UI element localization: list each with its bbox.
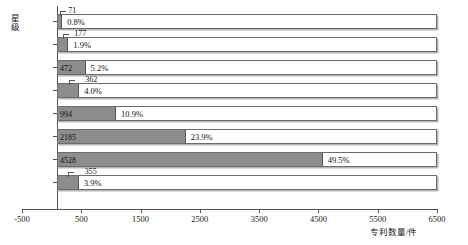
bar-track: 218523.9% <box>57 129 437 144</box>
bar-row: 4.5星1771.9% <box>57 33 437 56</box>
bar-fill[interactable] <box>58 15 62 28</box>
x-axis-tick-label: 4500 <box>298 214 338 225</box>
bar-fill[interactable] <box>58 176 79 189</box>
bar-track: 3624.0% <box>57 83 437 98</box>
bar-value-label: 362 <box>85 75 97 84</box>
leader-line <box>60 11 66 16</box>
bar-value-label: 71 <box>68 6 76 15</box>
bar-fill[interactable] <box>58 84 79 97</box>
y-axis-title: 星级 <box>4 14 18 32</box>
bar-track: 710.8% <box>57 14 437 29</box>
x-axis-tick-label: 1500 <box>121 214 161 225</box>
bar-chart: 星级 5星710.8%4.5星1771.9%4星4725.2%3.5星3624.… <box>0 0 468 245</box>
bar-percent-label: 5.2% <box>91 61 109 76</box>
bar-value-label: 2185 <box>60 130 76 145</box>
bar-value-label: 177 <box>74 29 86 38</box>
bar-percent-label: 49.5% <box>328 153 350 168</box>
bar-percent-label: 10.9% <box>121 107 143 122</box>
bar-track: 452849.5% <box>57 152 437 167</box>
x-axis-title: 专利数量/件 <box>370 227 417 238</box>
bar-value-label: 4528 <box>60 153 76 168</box>
bar-row: 5星710.8% <box>57 10 437 33</box>
bar-fill[interactable] <box>58 38 68 51</box>
bar-fill[interactable] <box>58 153 323 166</box>
x-axis-tick-label: 5500 <box>358 214 398 225</box>
bar-percent-label: 1.9% <box>73 38 91 53</box>
bar-row: 3星99410.9% <box>57 102 437 125</box>
bar-track: 4725.2% <box>57 60 437 75</box>
x-axis-tick <box>378 209 379 213</box>
bar-row: 3.5星3624.0% <box>57 79 437 102</box>
bar-percent-label: 23.9% <box>191 130 213 145</box>
bar-track: 99410.9% <box>57 106 437 121</box>
bar-row: 2星452849.5% <box>57 148 437 171</box>
x-axis-tick <box>437 209 438 213</box>
bar-row: 2.5星218523.9% <box>57 125 437 148</box>
bar-row: 1.5星3553.9% <box>57 171 437 194</box>
x-axis-tick <box>22 209 23 213</box>
x-axis-tick-label: -500 <box>2 214 42 225</box>
x-axis-tick <box>81 209 82 213</box>
x-axis-tick-label: 6500 <box>417 214 457 225</box>
x-axis-tick-label: 3500 <box>239 214 279 225</box>
bar-percent-label: 0.8% <box>67 15 85 30</box>
x-axis-tick <box>141 209 142 213</box>
x-axis-tick-label: 2500 <box>180 214 220 225</box>
bar-track: 3553.9% <box>57 175 437 190</box>
x-axis-tick <box>318 209 319 213</box>
bar-percent-label: 4.0% <box>84 84 102 99</box>
leader-line <box>68 172 74 177</box>
bar-value-label: 355 <box>85 167 97 176</box>
leader-line <box>69 80 75 85</box>
bar-value-label: 994 <box>60 107 72 122</box>
x-axis-line <box>22 209 437 210</box>
bar-row: 4星4725.2% <box>57 56 437 79</box>
bar-fill[interactable] <box>58 130 186 143</box>
x-axis-tick <box>259 209 260 213</box>
leader-line <box>63 34 69 39</box>
plot-area: 5星710.8%4.5星1771.9%4星4725.2%3.5星3624.0%3… <box>57 6 437 208</box>
x-axis-tick-label: 500 <box>61 214 101 225</box>
bar-percent-label: 3.9% <box>84 176 102 191</box>
x-axis-tick <box>200 209 201 213</box>
bar-value-label: 472 <box>60 61 72 76</box>
bar-track: 1771.9% <box>57 37 437 52</box>
